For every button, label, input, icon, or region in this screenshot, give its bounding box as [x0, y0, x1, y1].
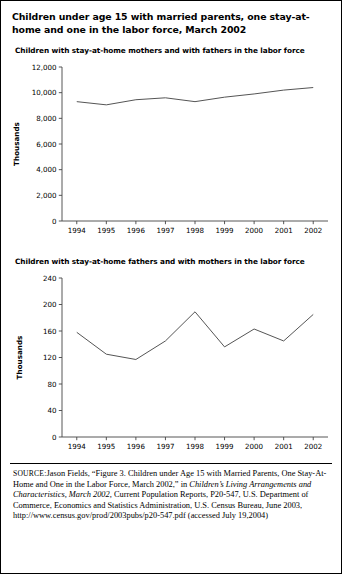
y-tick-label: 120	[43, 353, 57, 362]
y-axis-title: Thousands	[12, 122, 21, 166]
y-tick-label: 200	[43, 300, 57, 309]
source-note: SOURCE:Jason Fields, “Figure 3. Children…	[13, 469, 330, 522]
y-tick-label: 2,000	[36, 191, 57, 200]
data-series-line	[77, 312, 313, 360]
data-series-line	[77, 88, 313, 105]
x-tick-label: 1995	[97, 226, 115, 235]
source-divider	[10, 463, 332, 464]
chart-1-svg: 02,0004,0006,0008,00010,00012,0001994199…	[10, 58, 334, 243]
chart-1: 02,0004,0006,0008,00010,00012,0001994199…	[10, 58, 334, 243]
x-tick-label: 1994	[68, 442, 87, 451]
x-tick-label: 1997	[156, 442, 174, 451]
x-tick-label: 1999	[216, 226, 235, 235]
y-tick-label: 40	[47, 406, 57, 415]
y-tick-label: 240	[43, 274, 57, 283]
x-tick-label: 2001	[275, 226, 293, 235]
y-tick-label: 0	[52, 217, 57, 226]
x-tick-label: 1997	[156, 226, 174, 235]
y-tick-label: 6,000	[36, 140, 57, 149]
figure-frame: Children under age 15 with married paren…	[0, 0, 342, 574]
x-tick-label: 1998	[186, 442, 205, 451]
x-tick-label: 1996	[127, 442, 146, 451]
y-tick-label: 0	[52, 433, 57, 442]
page-title: Children under age 15 with married paren…	[12, 11, 332, 36]
chart-2: 0408012016020024019941995199619971998199…	[10, 269, 334, 459]
y-axis-title: Thousands	[15, 336, 24, 380]
y-tick-label: 4,000	[36, 165, 57, 174]
x-tick-label: 1998	[186, 226, 205, 235]
x-tick-label: 1996	[127, 226, 146, 235]
x-tick-label: 2001	[275, 442, 293, 451]
y-tick-label: 10,000	[32, 88, 57, 97]
y-tick-label: 160	[43, 327, 57, 336]
x-tick-label: 2002	[304, 226, 322, 235]
y-tick-label: 12,000	[32, 63, 57, 72]
chart-2-svg: 0408012016020024019941995199619971998199…	[10, 269, 334, 459]
y-tick-label: 8,000	[36, 114, 57, 123]
y-tick-label: 80	[47, 380, 57, 389]
x-tick-label: 2000	[245, 226, 264, 235]
chart-1-subtitle: Children with stay-at-home mothers and w…	[15, 46, 332, 55]
x-tick-label: 2000	[245, 442, 264, 451]
x-tick-label: 1994	[68, 226, 87, 235]
x-tick-label: 1995	[97, 442, 115, 451]
x-tick-label: 2002	[304, 442, 322, 451]
x-tick-label: 1999	[216, 442, 235, 451]
source-label: SOURCE:	[13, 469, 46, 478]
chart-2-subtitle: Children with stay-at-home fathers and w…	[15, 257, 332, 266]
